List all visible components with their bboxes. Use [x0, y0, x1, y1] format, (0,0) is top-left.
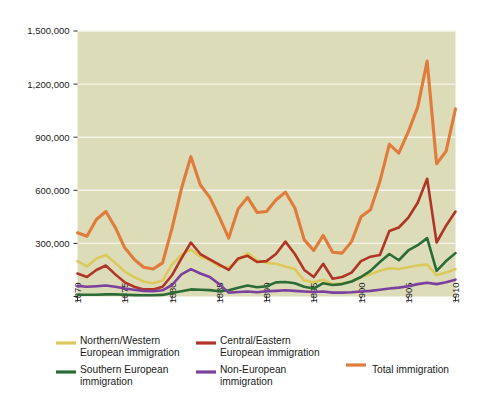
immigration-line-chart-figure: 300,000600,000900,0001,200,0001,500,000 …	[0, 0, 483, 414]
legend-northern-western-label-line1: Northern/Western	[80, 335, 160, 346]
plot-area-background	[78, 31, 456, 297]
y-tick-label-900000: 900,000	[35, 132, 69, 143]
legend-non-european-label-line1: Non-European	[220, 364, 286, 375]
y-tick-label-300000: 300,000	[35, 238, 69, 249]
legend-southern-label-line2: immigration	[80, 376, 133, 387]
y-tick-label-1500000: 1,500,000	[27, 25, 69, 36]
chart-canvas: 300,000600,000900,0001,200,0001,500,000 …	[0, 0, 483, 414]
legend-southern-label-line1: Southern European	[80, 364, 168, 375]
x-tick-label-1910: 1910	[450, 282, 461, 303]
legend-central-eastern-label-line2: European immigration	[220, 347, 320, 358]
legend-central-eastern-label-line1: Central/Eastern	[220, 335, 291, 346]
y-tick-label-600000: 600,000	[35, 185, 69, 196]
legend-northern-western-label-line2: European immigration	[80, 347, 180, 358]
legend-non-european-label-line2: immigration	[220, 376, 273, 387]
legend-total-label-line1: Total immigration	[372, 364, 449, 375]
y-tick-label-1200000: 1,200,000	[27, 79, 69, 90]
